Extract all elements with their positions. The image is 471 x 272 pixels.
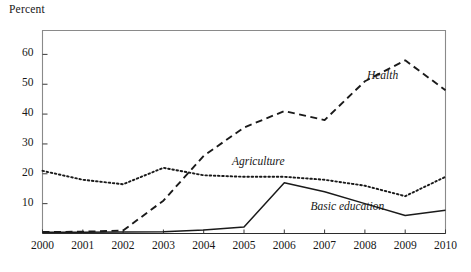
x-tick-label: 2004 (184, 239, 224, 251)
y-tick-label: 40 (10, 106, 34, 118)
y-tick-label: 60 (10, 46, 34, 58)
plot-area (0, 0, 471, 272)
y-tick-label: 10 (10, 196, 34, 208)
y-tick-label: 50 (10, 76, 34, 88)
x-tick-label: 2006 (264, 239, 304, 251)
x-tick-label: 2010 (426, 239, 466, 251)
series-label-agriculture: Agriculture (232, 155, 285, 167)
x-tick-label: 2001 (63, 239, 103, 251)
x-tick-label: 2000 (23, 239, 63, 251)
percent-line-chart: Percent 102030405060 2000200120022003200… (0, 0, 471, 272)
series-label-health: Health (367, 69, 398, 81)
y-tick-label: 30 (10, 136, 34, 148)
x-tick-label: 2005 (224, 239, 264, 251)
series-line-agriculture (43, 168, 446, 196)
x-tick-label: 2007 (305, 239, 345, 251)
x-tick-label: 2002 (103, 239, 143, 251)
plot-frame (43, 31, 446, 234)
y-tick-label: 20 (10, 166, 34, 178)
series-line-health (43, 60, 446, 232)
x-tick-label: 2003 (143, 239, 183, 251)
x-tick-label: 2009 (385, 239, 425, 251)
series-label-basic-education: Basic education (310, 200, 384, 212)
x-tick-label: 2008 (345, 239, 385, 251)
